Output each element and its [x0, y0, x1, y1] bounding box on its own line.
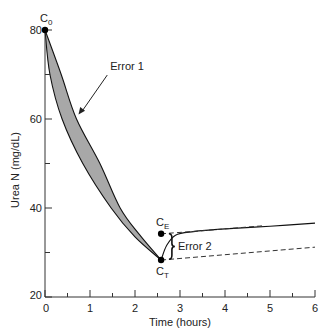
y-tick-label: 20 [30, 289, 42, 301]
y-tick-label: 80 [30, 24, 42, 36]
y-axis-title: Urea N (mg/dL) [9, 132, 21, 208]
points: C0CECT [40, 12, 169, 280]
x-axis-title: Time (hours) [149, 316, 211, 328]
error-2-brace [169, 234, 175, 259]
x-tick-label: 2 [132, 302, 138, 314]
error-1-label: Error 1 [110, 60, 144, 72]
point-label-ce: CE [156, 216, 169, 231]
series-line-equilibrated-projection [161, 226, 263, 234]
x-tick-label: 0 [43, 302, 49, 314]
point-ce [158, 231, 164, 237]
error-2-label: Error 2 [178, 240, 212, 252]
x-tick-label: 3 [177, 302, 183, 314]
x-tick-label: 1 [87, 302, 93, 314]
point-label-ct: CT [156, 265, 169, 280]
point-ct [158, 257, 164, 263]
error-1-arrow [83, 75, 108, 111]
x-tick-label: 4 [222, 302, 228, 314]
point-c0 [42, 27, 48, 33]
y-tick-label: 40 [30, 202, 42, 214]
ticks: 012345620406080 [30, 24, 318, 314]
urea-kinetics-chart: 012345620406080 C0CECT Error 1 Error 2 T… [0, 0, 330, 334]
x-tick-label: 6 [312, 302, 318, 314]
y-tick-label: 60 [30, 113, 42, 125]
x-tick-label: 5 [267, 302, 273, 314]
